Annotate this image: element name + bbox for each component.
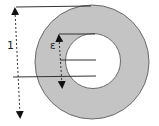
outer-dimension-label: 1 — [7, 39, 14, 52]
inner-circle — [66, 34, 121, 89]
thickness-label: ε — [50, 40, 55, 51]
annulus-diagram: 1 ε — [0, 0, 159, 126]
outer-dimension-arrow — [15, 11, 20, 115]
